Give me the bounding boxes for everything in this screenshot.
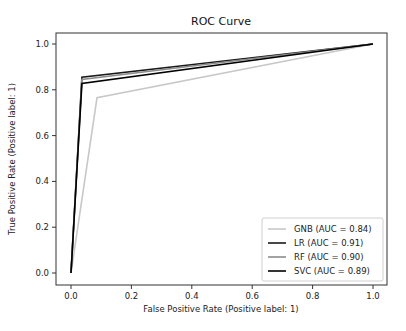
y-axis-label: True Positive Rate (Positive label: 1) bbox=[7, 83, 17, 236]
legend-label: RF (AUC = 0.90) bbox=[294, 252, 364, 262]
y-tick-label: 0.4 bbox=[35, 176, 49, 186]
x-tick-label: 0.6 bbox=[245, 291, 259, 301]
x-tick-label: 0.8 bbox=[306, 291, 320, 301]
roc-chart: ROC Curve 0.00.20.40.60.81.0 0.00.20.40.… bbox=[0, 0, 406, 331]
y-axis-ticks: 0.00.20.40.60.81.0 bbox=[35, 39, 56, 278]
x-axis-ticks: 0.00.20.40.60.81.0 bbox=[64, 285, 380, 301]
x-tick-label: 0.2 bbox=[125, 291, 139, 301]
y-tick-label: 0.8 bbox=[35, 85, 49, 95]
x-axis-label: False Positive Rate (Positive label: 1) bbox=[143, 304, 298, 314]
chart-title: ROC Curve bbox=[191, 15, 251, 28]
legend-label: LR (AUC = 0.91) bbox=[294, 238, 363, 248]
legend: GNB (AUC = 0.84)LR (AUC = 0.91)RF (AUC =… bbox=[262, 218, 383, 281]
x-tick-label: 1.0 bbox=[366, 291, 380, 301]
y-tick-label: 0.6 bbox=[35, 131, 49, 141]
y-tick-label: 0.2 bbox=[35, 222, 49, 232]
x-tick-label: 0.4 bbox=[185, 291, 199, 301]
legend-label: SVC (AUC = 0.89) bbox=[294, 266, 370, 276]
y-tick-label: 1.0 bbox=[35, 39, 49, 49]
x-tick-label: 0.0 bbox=[64, 291, 78, 301]
y-tick-label: 0.0 bbox=[35, 268, 49, 278]
legend-label: GNB (AUC = 0.84) bbox=[294, 224, 372, 234]
